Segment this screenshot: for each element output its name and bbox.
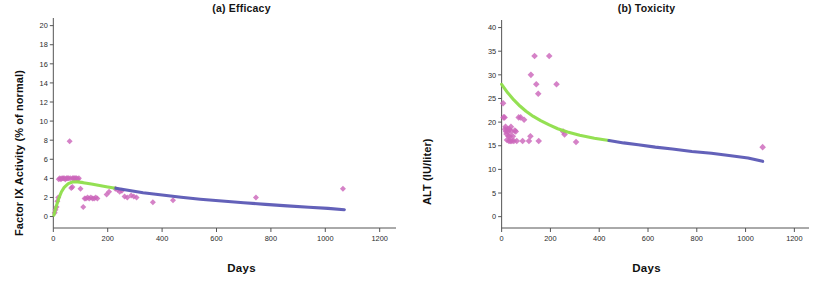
y-tick-label: 0 xyxy=(492,212,496,221)
data-point xyxy=(533,81,540,88)
x-tick-label: 800 xyxy=(691,234,703,243)
y-tick-label: 6 xyxy=(44,155,48,164)
y-tick-label: 25 xyxy=(488,94,496,103)
data-point xyxy=(535,138,542,145)
x-tick-label: 1000 xyxy=(317,234,333,243)
fit-curve xyxy=(116,188,344,209)
y-tick-label: 0 xyxy=(44,212,48,221)
chart-svg-toxicity: 0510152025303540020040060080010001200 xyxy=(411,0,822,285)
y-tick-label: 16 xyxy=(40,60,48,69)
data-point xyxy=(528,72,535,79)
figure-container: (a) Efficacy Factor IX Activity (% of no… xyxy=(0,0,822,285)
y-tick-label: 15 xyxy=(488,141,496,150)
plot-area-toxicity: 0510152025303540020040060080010001200 xyxy=(411,0,822,285)
x-tick-label: 400 xyxy=(156,234,168,243)
data-point xyxy=(67,138,73,144)
data-point xyxy=(759,144,766,151)
fit-curve xyxy=(609,141,763,162)
y-tick-label: 10 xyxy=(40,117,48,126)
panel-efficacy: (a) Efficacy Factor IX Activity (% of no… xyxy=(0,0,411,285)
x-tick-label: 600 xyxy=(642,234,654,243)
y-tick-label: 18 xyxy=(40,40,48,49)
data-point xyxy=(340,186,346,192)
chart-svg-efficacy: 02468101214161820020040060080010001200 xyxy=(0,0,411,285)
data-point xyxy=(531,53,538,60)
x-tick-label: 800 xyxy=(265,234,277,243)
data-point xyxy=(80,204,86,210)
data-point xyxy=(535,90,542,97)
y-tick-label: 35 xyxy=(488,47,496,56)
x-tick-label: 600 xyxy=(210,234,222,243)
y-tick-label: 20 xyxy=(488,118,496,127)
plot-area-efficacy: 02468101214161820020040060080010001200 xyxy=(0,0,411,285)
x-tick-label: 200 xyxy=(102,234,114,243)
x-tick-label: 0 xyxy=(51,234,55,243)
y-tick-label: 20 xyxy=(40,21,48,30)
x-tick-label: 400 xyxy=(593,234,605,243)
data-point xyxy=(573,139,580,146)
y-tick-label: 2 xyxy=(44,193,48,202)
data-point xyxy=(150,199,156,205)
x-tick-label: 1200 xyxy=(371,234,387,243)
y-tick-label: 12 xyxy=(40,98,48,107)
data-point xyxy=(500,100,507,107)
y-tick-label: 10 xyxy=(488,165,496,174)
y-tick-label: 14 xyxy=(40,79,48,88)
y-tick-label: 40 xyxy=(488,23,496,32)
x-tick-label: 200 xyxy=(544,234,556,243)
data-point xyxy=(170,197,176,203)
data-point xyxy=(501,114,508,121)
y-tick-label: 30 xyxy=(488,71,496,80)
data-point xyxy=(78,186,84,192)
data-point xyxy=(546,53,553,60)
panel-toxicity: (b) Toxicity ALT (IU/liter) Days 0510152… xyxy=(411,0,822,285)
data-point xyxy=(553,81,560,88)
y-tick-label: 8 xyxy=(44,136,48,145)
y-tick-label: 5 xyxy=(492,189,496,198)
x-tick-label: 1000 xyxy=(737,234,753,243)
y-tick-label: 4 xyxy=(44,174,48,183)
data-point xyxy=(519,138,526,145)
x-tick-label: 1200 xyxy=(786,234,802,243)
data-point xyxy=(253,194,259,200)
x-tick-label: 0 xyxy=(500,234,504,243)
